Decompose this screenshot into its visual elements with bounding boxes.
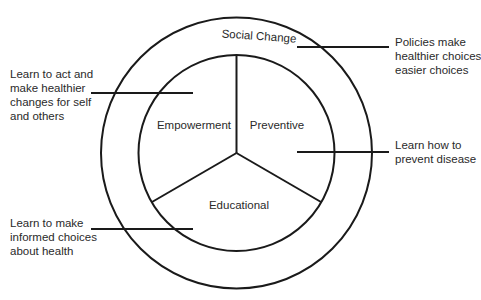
divider-lower-left (152, 153, 237, 202)
annotation-line: changes for self (10, 95, 93, 109)
annotation-line: Learn to act and (10, 67, 93, 81)
annotation-line: Learn to make (10, 216, 97, 230)
divider-lower-right (237, 153, 322, 202)
segment-label-preventive: Preventive (250, 119, 304, 131)
annotation-line: make healthier (10, 81, 93, 95)
annotation-social-change: Policies make healthier choices easier c… (395, 35, 481, 77)
annotation-line: about health (10, 244, 97, 258)
annotation-line: prevent disease (395, 152, 476, 166)
segment-label-educational: Educational (209, 199, 269, 211)
segment-label-empowerment: Empowerment (157, 119, 232, 131)
annotation-empowerment: Learn to act and make healthier changes … (10, 67, 93, 123)
annotation-educational: Learn to make informed choices about hea… (10, 216, 97, 258)
annotation-line: Policies make (395, 35, 481, 49)
annotation-line: and others (10, 109, 93, 123)
annotation-line: easier choices (395, 63, 481, 77)
outer-ring-label: Social Change (221, 27, 296, 44)
annotation-preventive: Learn how to prevent disease (395, 138, 476, 166)
annotation-line: Learn how to (395, 138, 476, 152)
annotation-line: healthier choices (395, 49, 481, 63)
annotation-line: informed choices (10, 230, 97, 244)
